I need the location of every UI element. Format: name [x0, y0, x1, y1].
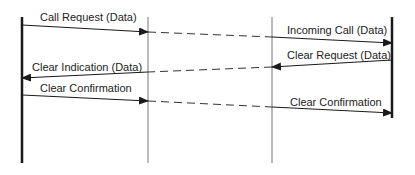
arrow-solid [272, 37, 392, 43]
message-clear-confirmation-left: Clear Confirmation [22, 82, 272, 107]
label-clear-confirmation-right: Clear Confirmation [290, 96, 382, 108]
label-clear-confirmation-left: Clear Confirmation [40, 82, 132, 94]
arrow-dashed [148, 101, 272, 107]
sequence-diagram: Call Request (Data) Incoming Call (Data)… [0, 0, 415, 175]
label-clear-indication: Clear Indication (Data) [32, 61, 142, 73]
message-clear-confirmation-right: Clear Confirmation [272, 96, 392, 113]
label-incoming-call: Incoming Call (Data) [287, 24, 387, 36]
message-clear-request: Clear Request (Data) [148, 49, 392, 72]
message-call-request: Call Request (Data) [22, 11, 272, 37]
arrow-dashed [148, 67, 272, 72]
label-call-request: Call Request (Data) [40, 11, 137, 23]
arrow-solid [22, 25, 148, 32]
label-clear-request: Clear Request (Data) [287, 49, 391, 61]
message-incoming-call: Incoming Call (Data) [272, 24, 392, 43]
diagram-svg: Call Request (Data) Incoming Call (Data)… [0, 0, 415, 175]
arrow-solid [22, 95, 148, 101]
arrow-solid [272, 60, 392, 67]
arrow-dashed [148, 32, 272, 37]
message-clear-indication: Clear Indication (Data) [22, 61, 148, 78]
